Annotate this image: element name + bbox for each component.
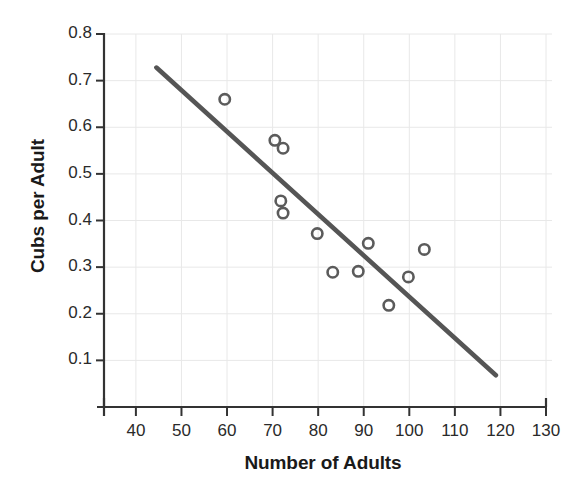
scatter-chart-figure: Cubs per Adult Number of Adults 0.10.20.…: [0, 0, 571, 494]
x-tick-label: 60: [203, 421, 251, 441]
x-tick-label: 70: [249, 421, 297, 441]
x-tick-label: 100: [385, 421, 433, 441]
data-point-marker: [403, 272, 413, 282]
data-point-marker: [353, 266, 363, 276]
y-tick-label: 0.7: [44, 70, 92, 90]
data-points: [220, 94, 430, 310]
data-point-marker: [363, 238, 373, 248]
trendline-segment: [156, 68, 495, 376]
data-point-marker: [419, 244, 429, 254]
data-point-marker: [384, 300, 394, 310]
data-point-marker: [278, 208, 288, 218]
data-point-marker: [328, 267, 338, 277]
x-tick-label: 80: [294, 421, 342, 441]
x-tick-label: 130: [522, 421, 570, 441]
y-tick-label: 0.8: [44, 23, 92, 43]
x-tick-label: 120: [476, 421, 524, 441]
y-tick-label: 0.2: [44, 303, 92, 323]
y-tick-label: 0.3: [44, 256, 92, 276]
data-point-marker: [278, 143, 288, 153]
x-tick-label: 110: [431, 421, 479, 441]
x-tick-label: 50: [157, 421, 205, 441]
y-tick-label: 0.1: [44, 349, 92, 369]
x-tick-label: 40: [112, 421, 160, 441]
y-tick-label: 0.5: [44, 163, 92, 183]
data-point-marker: [220, 94, 230, 104]
y-tick-label: 0.6: [44, 116, 92, 136]
trendline: [156, 68, 495, 376]
y-tick-label: 0.4: [44, 210, 92, 230]
x-tick-label: 90: [340, 421, 388, 441]
data-point-marker: [276, 196, 286, 206]
data-point-marker: [312, 228, 322, 238]
